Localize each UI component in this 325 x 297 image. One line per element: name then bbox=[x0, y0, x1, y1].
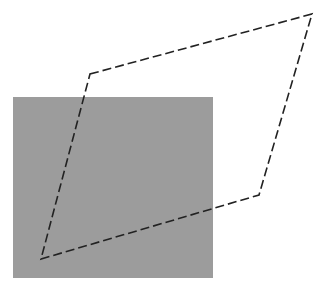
diagram-canvas bbox=[0, 0, 325, 297]
